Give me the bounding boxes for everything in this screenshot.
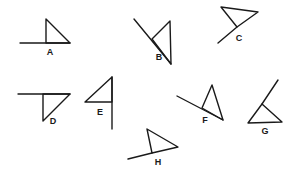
figure-f: F	[177, 85, 223, 125]
line-segment	[128, 153, 152, 159]
line-segment	[218, 27, 237, 43]
triangle-shape	[46, 19, 70, 43]
triangle-shape	[221, 7, 258, 27]
figure-c: C	[218, 7, 258, 43]
diagram-canvas: ABCDEFGH	[0, 0, 296, 177]
figure-label: F	[202, 115, 208, 125]
figure-g: G	[248, 80, 282, 136]
figure-e: E	[85, 77, 112, 129]
line-segment	[262, 80, 278, 104]
figure-h: H	[128, 129, 178, 167]
figure-a: A	[20, 19, 70, 57]
triangle-shape	[147, 129, 178, 153]
triangle-shape	[43, 94, 70, 121]
triangle-shape	[248, 104, 282, 123]
figure-d: D	[18, 94, 70, 126]
figure-label: A	[47, 47, 54, 57]
figure-label: D	[50, 116, 57, 126]
figure-b: B	[134, 19, 171, 64]
figure-label: H	[155, 157, 162, 167]
triangle-shape	[85, 77, 112, 102]
figure-label: C	[236, 33, 243, 43]
figure-label: B	[156, 52, 163, 62]
figure-label: G	[261, 126, 268, 136]
figure-label: E	[97, 107, 103, 117]
